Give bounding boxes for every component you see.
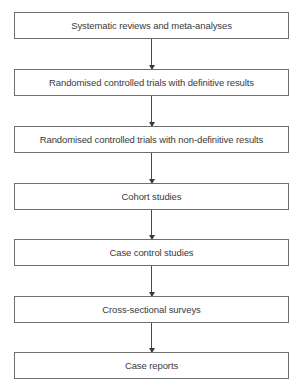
arrow-down-icon: [151, 323, 152, 352]
node-label: Cohort studies: [122, 191, 182, 202]
node-systematic-reviews: Systematic reviews and meta-analyses: [14, 12, 289, 39]
node-rct-non-definitive: Randomised controlled trials with non-de…: [14, 126, 289, 153]
node-case-reports: Case reports: [14, 352, 289, 379]
node-label: Cross-sectional surveys: [102, 304, 201, 315]
arrow-down-icon: [151, 153, 152, 183]
arrow-down-icon: [151, 210, 152, 239]
node-label: Case reports: [125, 360, 178, 371]
node-rct-definitive: Randomised controlled trials with defini…: [14, 69, 289, 96]
arrow-down-icon: [151, 266, 152, 296]
arrow-down-icon: [151, 39, 152, 69]
node-label: Randomised controlled trials with defini…: [49, 77, 254, 88]
node-cohort-studies: Cohort studies: [14, 183, 289, 210]
node-case-control-studies: Case control studies: [14, 239, 289, 266]
node-label: Randomised controlled trials with non-de…: [40, 134, 264, 145]
node-label: Case control studies: [109, 247, 193, 258]
node-label: Systematic reviews and meta-analyses: [71, 20, 232, 31]
node-cross-sectional-surveys: Cross-sectional surveys: [14, 296, 289, 323]
arrow-down-icon: [151, 96, 152, 126]
